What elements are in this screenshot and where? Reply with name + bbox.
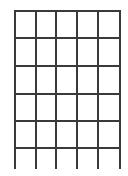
grid-vertical-line xyxy=(14,10,16,169)
grid-horizontal-line xyxy=(14,65,121,67)
grid-horizontal-line xyxy=(14,93,121,95)
grid-horizontal-line xyxy=(14,37,121,39)
grid-vertical-line xyxy=(55,10,57,169)
grid-horizontal-line xyxy=(14,147,121,149)
grid-diagram xyxy=(0,0,128,176)
grid-vertical-line xyxy=(97,10,99,169)
grid-vertical-line xyxy=(119,10,121,169)
grid-vertical-line xyxy=(35,10,37,169)
grid-vertical-line xyxy=(76,10,78,169)
grid-horizontal-line xyxy=(14,120,121,122)
grid-horizontal-line xyxy=(14,10,121,12)
